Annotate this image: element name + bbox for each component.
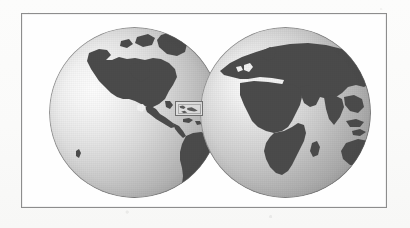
figure-caption [0,0,1,1]
figure-root [0,0,410,228]
region-box-inner-rule [178,104,201,114]
region-of-interest-box[interactable] [175,101,203,116]
landmass-layer-eastern [200,27,371,198]
globe-eastern-hemisphere[interactable] [200,27,371,198]
figure-frame [21,13,387,208]
